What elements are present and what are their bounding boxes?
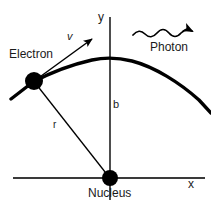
electron-label: Electron (9, 48, 53, 60)
y-axis-label: y (98, 11, 104, 23)
impact-parameter-label: b (113, 99, 119, 110)
photon-label: Photon (150, 41, 188, 53)
velocity-label: v (67, 31, 73, 42)
nucleus-label: Nucleus (88, 187, 131, 199)
radius-vector-line (36, 84, 109, 177)
photon-wave-arrow (133, 30, 192, 37)
physics-diagram: Electron Nucleus Photon y x b r v (0, 0, 211, 215)
x-axis-label: x (188, 178, 194, 190)
nucleus-dot (102, 170, 118, 186)
electron-dot (25, 72, 43, 90)
diagram-canvas (0, 0, 211, 215)
radius-label: r (53, 120, 56, 130)
